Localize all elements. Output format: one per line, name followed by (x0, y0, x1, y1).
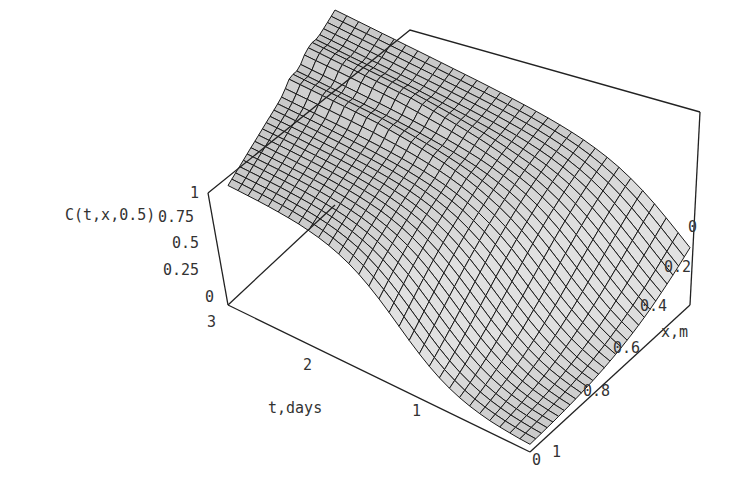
z-tick-1: 1 (190, 184, 199, 202)
x-tick-04: 0.4 (640, 297, 667, 315)
surface-plot: 1 0.75 0.5 0.25 0 C(t,x,0.5) 3 2 1 0 t,d… (0, 0, 737, 492)
x-tick-0: 0 (688, 218, 697, 236)
x-tick-06: 0.6 (613, 339, 640, 357)
z-tick-025: 0.25 (163, 261, 199, 279)
surface-mesh (228, 10, 690, 444)
t-tick-3: 3 (207, 313, 216, 331)
t-tick-2: 2 (303, 356, 312, 374)
x-axis-label: x,m (661, 323, 688, 341)
x-tick-08: 0.8 (583, 382, 610, 400)
t-tick-0: 0 (532, 451, 541, 469)
z-tick-0: 0 (205, 288, 214, 306)
z-axis-label: C(t,x,0.5) (65, 206, 155, 224)
x-tick-02: 0.2 (664, 258, 691, 276)
x-tick-1: 1 (552, 443, 561, 461)
z-tick-05: 0.5 (172, 234, 199, 252)
t-tick-1: 1 (412, 402, 421, 420)
t-axis-label: t,days (268, 399, 322, 417)
z-tick-075: 0.75 (158, 208, 194, 226)
